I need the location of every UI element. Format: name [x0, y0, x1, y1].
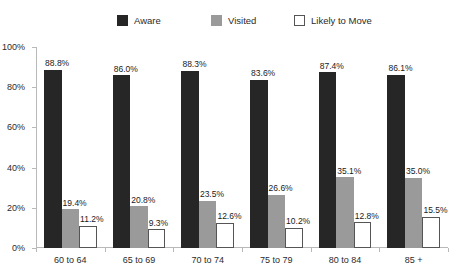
bar-value-label: 9.3%: [149, 219, 168, 228]
x-axis-category-label: 85 +: [379, 256, 448, 265]
y-axis-tick-label: 80%: [7, 83, 25, 92]
bar: [268, 195, 286, 248]
legend-item-visited: Visited: [211, 13, 256, 27]
y-axis-tick-label: 40%: [7, 163, 25, 172]
legend-swatch-likely-to-move: [294, 15, 305, 26]
y-axis-tick-label: 0%: [12, 244, 25, 253]
x-axis-category-label: 75 to 79: [242, 256, 311, 265]
bar: [148, 229, 166, 248]
x-axis-category-label: 80 to 84: [311, 256, 380, 265]
bar-value-label: 15.5%: [423, 206, 447, 215]
legend-swatch-aware: [117, 15, 128, 26]
bar-value-label: 10.2%: [286, 217, 310, 226]
plot-area: 0%20%40%60%80%100% 88.8%19.4%11.2%60 to …: [36, 47, 448, 248]
bar: [199, 201, 217, 248]
bar: [319, 72, 337, 248]
legend-swatch-visited: [211, 15, 222, 26]
legend-label-aware: Aware: [134, 15, 161, 26]
bar-value-label: 11.2%: [80, 215, 103, 224]
y-axis-tick-label: 60%: [7, 123, 25, 132]
bar-value-label: 12.6%: [217, 212, 241, 221]
x-axis-tick: [173, 248, 174, 252]
x-axis-tick: [311, 248, 312, 252]
bar: [113, 75, 131, 248]
chart-legend: Aware Visited Likely to Move: [0, 13, 454, 29]
legend-item-aware: Aware: [117, 13, 161, 27]
bar-group: 86.0%20.8%9.3%65 to 69: [105, 47, 174, 248]
bar: [354, 222, 372, 248]
x-axis-tick: [242, 248, 243, 252]
bar: [130, 206, 148, 248]
legend-label-likely-to-move: Likely to Move: [311, 15, 372, 26]
bar: [216, 223, 234, 248]
bar-group: 88.8%19.4%11.2%60 to 64: [36, 47, 105, 248]
y-axis-tick-label: 20%: [7, 203, 25, 212]
bar: [285, 228, 303, 249]
bar-chart: Aware Visited Likely to Move 0%20%40%60%…: [0, 0, 454, 280]
x-axis-tick: [448, 248, 449, 252]
legend-item-likely-to-move: Likely to Move: [294, 13, 372, 27]
x-axis-category-label: 60 to 64: [36, 256, 105, 265]
bar: [62, 209, 80, 248]
bar: [405, 178, 423, 248]
x-axis-category-label: 70 to 74: [173, 256, 242, 265]
bar-group: 86.1%35.0%15.5%85 +: [379, 47, 448, 248]
bar: [336, 177, 354, 248]
bar: [44, 70, 62, 248]
bar: [79, 226, 97, 249]
bar-group: 87.4%35.1%12.8%80 to 84: [311, 47, 380, 248]
bar-value-label: 12.8%: [355, 212, 379, 221]
x-axis-tick: [36, 248, 37, 252]
x-axis-tick: [105, 248, 106, 252]
bar-group: 88.3%23.5%12.6%70 to 74: [173, 47, 242, 248]
bar: [387, 75, 405, 248]
bar: [181, 71, 199, 248]
x-axis-category-label: 65 to 69: [105, 256, 174, 265]
bar: [422, 217, 440, 248]
x-axis-tick: [379, 248, 380, 252]
bar-group: 83.6%26.6%10.2%75 to 79: [242, 47, 311, 248]
bar: [250, 80, 268, 248]
y-axis-tick-label: 100%: [2, 43, 25, 52]
legend-label-visited: Visited: [228, 15, 256, 26]
